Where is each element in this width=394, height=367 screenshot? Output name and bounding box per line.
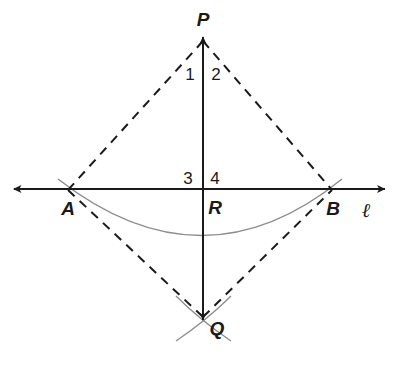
angle-label-1: 1 [185, 66, 194, 83]
construction-arc-main [58, 179, 342, 236]
line-label-ell: ℓ [362, 200, 370, 220]
segment-QB [203, 190, 332, 317]
point-label-a: A [61, 199, 75, 218]
point-label-p: P [197, 10, 210, 29]
geometry-canvas [0, 0, 394, 367]
point-label-b: B [326, 199, 340, 218]
point-label-r: R [208, 198, 222, 217]
angle-label-4: 4 [210, 170, 219, 187]
angle-label-3: 3 [183, 170, 192, 187]
geometry-diagram: P Q A B R 1 2 3 4 ℓ [0, 0, 394, 367]
point-label-q: Q [210, 319, 225, 338]
segment-AQ [68, 190, 203, 317]
angle-label-2: 2 [211, 66, 220, 83]
segment-PB [203, 41, 332, 190]
